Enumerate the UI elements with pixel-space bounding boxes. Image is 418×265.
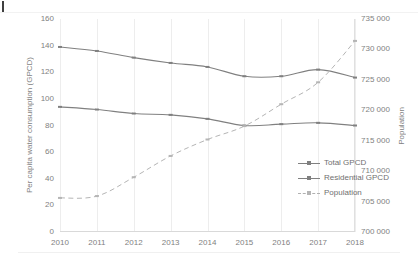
data-point-marker (242, 125, 246, 127)
x-tick-label: 2010 (51, 239, 69, 247)
y-tick-label-left: 40 (45, 175, 54, 183)
x-tick-label: 2017 (309, 239, 327, 247)
legend-swatch-icon (298, 175, 320, 182)
data-point-marker (279, 103, 283, 105)
series-line (60, 107, 355, 126)
data-point-marker (169, 114, 173, 116)
data-point-marker (353, 125, 357, 127)
legend-item[interactable]: Residential GPCD (298, 174, 389, 182)
y-tick-label-right: 700 000 (361, 228, 390, 236)
x-tick-label: 2012 (125, 239, 143, 247)
page-rule-bottom (18, 252, 400, 253)
y-axis-title-right-text: Population (397, 107, 406, 145)
y-tick-label-left: 60 (45, 148, 54, 156)
x-tick-label: 2013 (162, 239, 180, 247)
x-tick-label: 2018 (346, 239, 364, 247)
legend-item-label: Residential GPCD (324, 174, 389, 182)
data-point-marker (316, 122, 320, 124)
y-tick-label-right: 725 000 (361, 76, 390, 84)
data-point-marker (169, 62, 173, 64)
chart-figure: Per capita water consumption (GPCD) Popu… (0, 0, 418, 265)
series-total-gpcd (58, 46, 357, 79)
data-point-marker (279, 75, 283, 77)
x-tick-label: 2014 (199, 239, 217, 247)
data-point-marker (132, 57, 136, 59)
data-point-marker (242, 75, 246, 77)
data-point-marker (58, 46, 62, 48)
y-tick-label-right: 735 000 (361, 15, 390, 23)
y-tick-label-right: 715 000 (361, 137, 390, 145)
chart-legend: Total GPCDResidential GPCDPopulation (298, 159, 389, 197)
y-tick-label-left: 140 (41, 42, 54, 50)
data-point-marker (279, 123, 283, 125)
legend-swatch-icon (298, 160, 320, 167)
x-tick-label: 2011 (88, 239, 105, 247)
data-point-marker (169, 155, 173, 157)
y-axis-title-left: Per capita water consumption (GPCD) (22, 19, 36, 232)
data-point-marker (58, 106, 62, 108)
data-point-marker (132, 176, 136, 178)
legend-swatch-icon (298, 190, 320, 197)
legend-item-label: Total GPCD (324, 159, 366, 167)
data-point-marker (95, 109, 99, 111)
legend-item-label: Population (324, 189, 362, 197)
y-tick-label-left: 100 (41, 95, 54, 103)
series-layer (60, 19, 355, 232)
plot-area: 020406080100120140160 700 000705 000710 … (60, 19, 355, 232)
data-point-marker (206, 118, 210, 120)
data-point-marker (95, 50, 99, 52)
legend-item[interactable]: Population (298, 189, 389, 197)
series-residential-gpcd (58, 106, 357, 127)
data-point-marker (132, 113, 136, 115)
y-tick-label-left: 0 (50, 228, 54, 236)
data-point-marker (95, 195, 99, 197)
data-point-marker (206, 138, 210, 140)
y-tick-label-left: 120 (41, 68, 54, 76)
y-axis-title-right: Population (394, 19, 408, 232)
data-point-marker (58, 197, 62, 199)
legend-item[interactable]: Total GPCD (298, 159, 389, 167)
y-tick-label-right: 730 000 (361, 45, 390, 53)
x-tick-label: 2015 (235, 239, 253, 247)
x-tick-label: 2016 (272, 239, 290, 247)
y-tick-label-left: 80 (45, 122, 54, 130)
data-point-marker (353, 40, 357, 42)
page-rule-top (0, 12, 418, 13)
y-tick-label-right: 720 000 (361, 106, 390, 114)
data-point-marker (316, 81, 320, 83)
y-axis-title-left-text: Per capita water consumption (GPCD) (25, 57, 34, 193)
y-tick-label-left: 160 (41, 15, 54, 23)
series-line (60, 47, 355, 78)
data-point-marker (206, 66, 210, 68)
data-point-marker (353, 77, 357, 79)
y-tick-label-left: 20 (45, 201, 54, 209)
y-tick-label-right: 705 000 (361, 198, 390, 206)
data-point-marker (316, 69, 320, 71)
